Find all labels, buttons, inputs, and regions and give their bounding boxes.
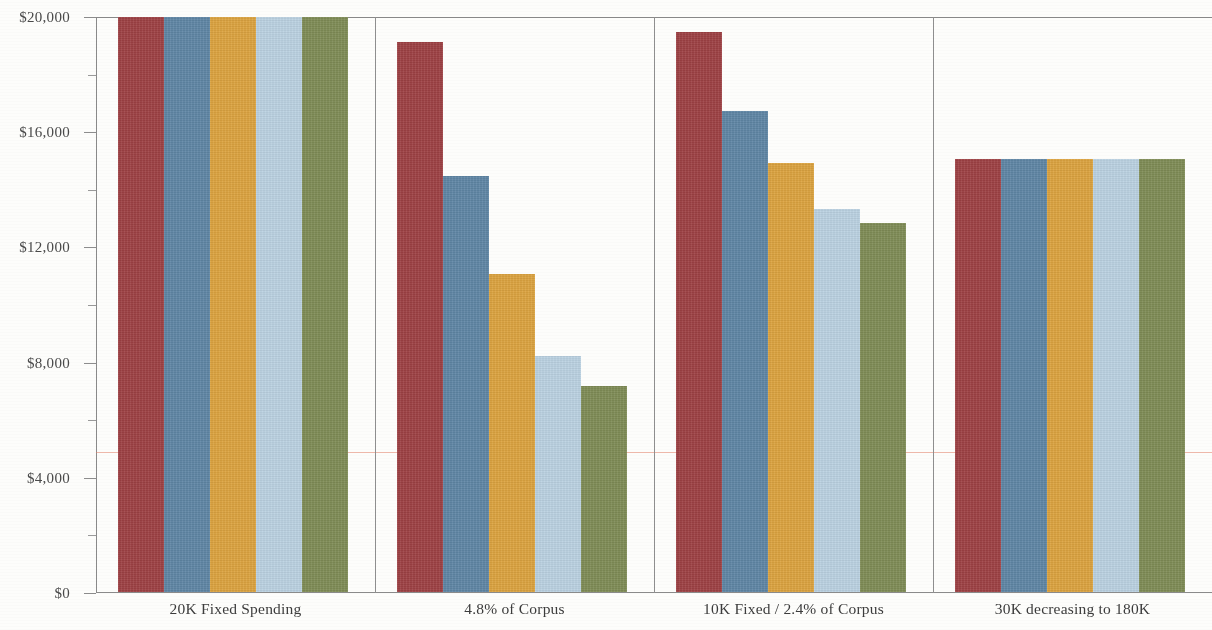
y-tick-minor <box>88 535 96 536</box>
y-tick-label: $16,000 <box>19 124 70 141</box>
y-axis: $0$4,000$8,000$12,000$16,000$20,000 <box>0 0 80 630</box>
y-tick-label: $0 <box>54 585 70 602</box>
bar <box>210 17 256 592</box>
bar <box>256 17 302 592</box>
bar-group <box>654 17 933 592</box>
x-axis-label: 20K Fixed Spending <box>96 600 375 618</box>
bar <box>955 159 1001 592</box>
y-tick-major <box>84 593 96 594</box>
y-tick-minor <box>88 75 96 76</box>
y-tick-major <box>84 17 96 18</box>
y-tick-label: $12,000 <box>19 239 70 256</box>
bar-group <box>96 17 375 592</box>
bar <box>164 17 210 592</box>
bar <box>581 386 627 592</box>
y-tick-label: $4,000 <box>27 469 70 486</box>
x-axis-label: 10K Fixed / 2.4% of Corpus <box>654 600 933 618</box>
bar <box>489 274 535 592</box>
y-tick-major <box>84 363 96 364</box>
x-axis-label: 30K decreasing to 180K <box>933 600 1212 618</box>
bar <box>1047 159 1093 592</box>
y-tick-minor <box>88 190 96 191</box>
y-tick-major <box>84 247 96 248</box>
bar <box>118 17 164 592</box>
bar <box>860 223 906 592</box>
y-tick-major <box>84 478 96 479</box>
bar <box>397 42 443 592</box>
bar <box>1093 159 1139 592</box>
y-tick-major <box>84 132 96 133</box>
plot-area <box>96 17 1212 593</box>
bar <box>443 176 489 592</box>
y-tick-label: $20,000 <box>19 9 70 26</box>
bar-chart: $0$4,000$8,000$12,000$16,000$20,000 20K … <box>0 0 1212 630</box>
bar <box>1001 159 1047 592</box>
bar <box>722 111 768 592</box>
y-tick-label: $8,000 <box>27 354 70 371</box>
bar-group <box>933 17 1212 592</box>
bar <box>1139 159 1185 592</box>
bar <box>814 209 860 592</box>
y-tick-minor <box>88 420 96 421</box>
x-axis-label: 4.8% of Corpus <box>375 600 654 618</box>
bar <box>768 163 814 592</box>
bar <box>302 17 348 592</box>
y-tick-minor <box>88 305 96 306</box>
bar <box>676 32 722 592</box>
x-axis-category-labels: 20K Fixed Spending4.8% of Corpus10K Fixe… <box>96 600 1212 630</box>
bar <box>535 356 581 592</box>
bar-group <box>375 17 654 592</box>
